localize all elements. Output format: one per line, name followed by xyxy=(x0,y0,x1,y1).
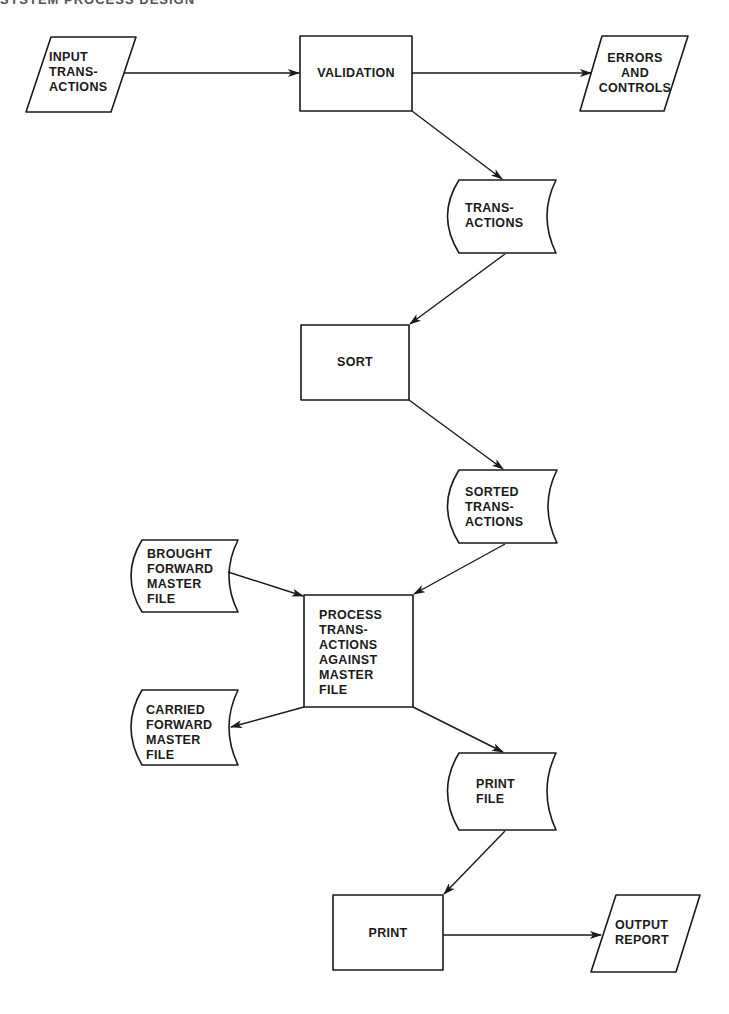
edge-sorted-transactions-to-process xyxy=(414,544,505,594)
validation-label: VALIDATION xyxy=(300,66,412,81)
edge-sort-to-sorted-transactions xyxy=(409,400,503,469)
edge-process-to-carried-forward xyxy=(231,707,304,727)
sort-label: SORT xyxy=(301,355,409,370)
process-transactions-label: PROCESS TRANS- ACTIONS AGAINST MASTER FI… xyxy=(319,608,382,698)
print-label: PRINT xyxy=(333,926,443,941)
transactions-label: TRANS- ACTIONS xyxy=(465,201,523,231)
edge-process-to-print-file xyxy=(413,707,503,752)
print-file-label: PRINT FILE xyxy=(476,777,515,807)
carried-forward-master-file-label: CARRIED FORWARD MASTER FILE xyxy=(146,703,212,763)
output-report-label: OUTPUT REPORT xyxy=(615,918,669,948)
edge-brought-forward-to-process xyxy=(228,572,303,596)
brought-forward-master-file-label: BROUGHT FORWARD MASTER FILE xyxy=(147,547,213,607)
flowchart-canvas xyxy=(0,0,729,1014)
edge-print-file-to-print xyxy=(444,831,505,894)
edge-transactions-to-sort xyxy=(410,254,505,324)
errors-and-controls-label: ERRORS AND CONTROLS xyxy=(592,51,678,96)
edge-validation-to-transactions xyxy=(412,111,502,179)
input-transactions-label: INPUT TRANS- ACTIONS xyxy=(49,50,107,95)
sorted-transactions-label: SORTED TRANS- ACTIONS xyxy=(465,485,523,530)
